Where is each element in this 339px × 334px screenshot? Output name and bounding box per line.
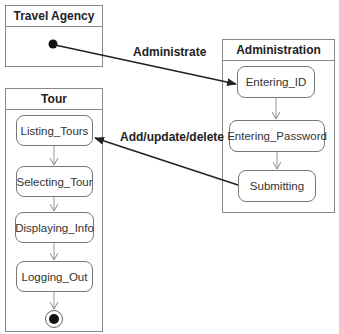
travel-agency-package: Travel Agency xyxy=(5,5,103,67)
state-submitting[interactable]: Submitting xyxy=(238,170,316,202)
transition-label-add-update-delete: Add/update/delete xyxy=(120,130,224,144)
tour-title: Tour xyxy=(6,89,102,110)
state-listing-tours[interactable]: Listing_Tours xyxy=(16,115,93,146)
travel-agency-title: Travel Agency xyxy=(6,6,102,27)
transition-label-administrate: Administrate xyxy=(133,45,206,59)
state-entering-id[interactable]: Entering_ID xyxy=(237,66,315,98)
state-selecting-tour[interactable]: Selecting_Tour xyxy=(16,166,93,197)
state-logging-out[interactable]: Logging_Out xyxy=(16,261,93,292)
state-displaying-info[interactable]: Displaying_Info xyxy=(15,212,94,243)
administration-title: Administration xyxy=(223,40,334,61)
state-entering-password[interactable]: Entering_Password xyxy=(229,120,325,152)
